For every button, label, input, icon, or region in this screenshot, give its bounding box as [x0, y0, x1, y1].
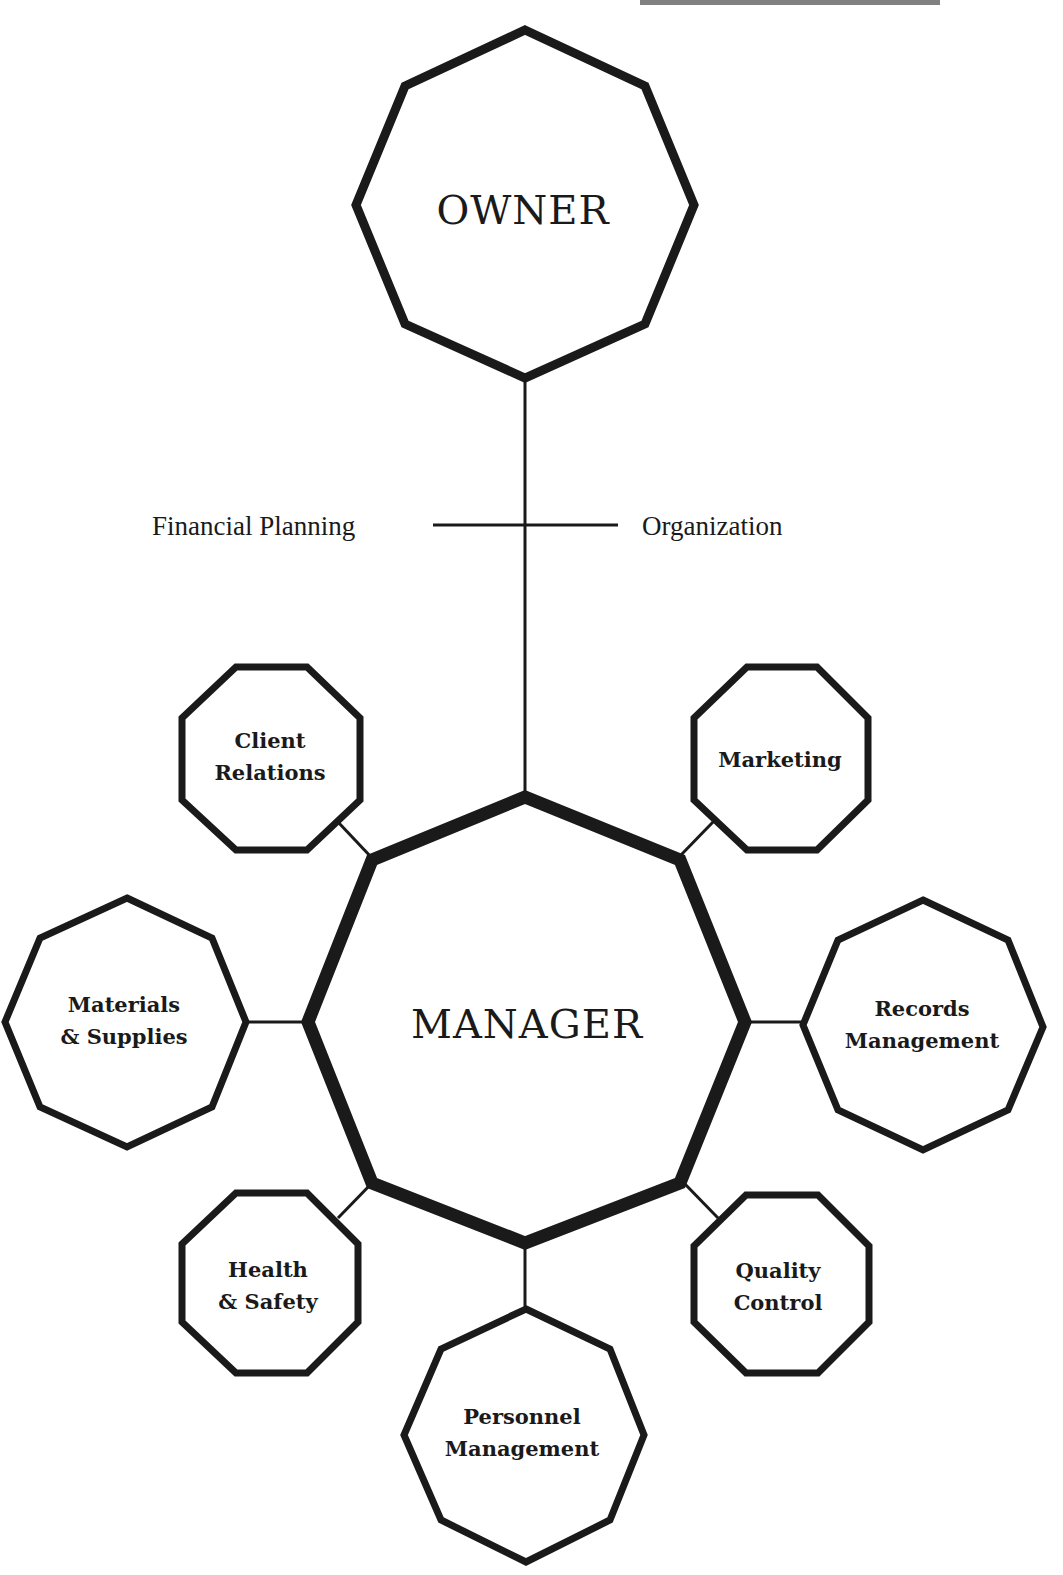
node-records-management: Records Management [803, 900, 1043, 1150]
client-relations-line1: Client [235, 728, 306, 753]
marketing-line1: Marketing [718, 747, 842, 772]
records-management-line2: Management [845, 1028, 1000, 1053]
connector-client-relations [338, 822, 372, 858]
materials-supplies-line2: & Supplies [60, 1024, 187, 1049]
materials-supplies-line1: Materials [68, 992, 180, 1017]
node-quality-control: Quality Control [694, 1195, 869, 1373]
quality-control-line2: Control [734, 1290, 823, 1315]
organization-label: Organization [642, 511, 783, 541]
financial-planning-label: Financial Planning [152, 511, 355, 541]
cropped-heading [640, 0, 940, 5]
personnel-management-line1: Personnel [463, 1404, 580, 1429]
client-relations-line2: Relations [214, 760, 325, 785]
org-diagram: OWNER Financial Planning Organization MA… [0, 0, 1063, 1575]
connector-health-safety [338, 1183, 372, 1218]
connector-quality-control [683, 1182, 718, 1218]
quality-control-line1: Quality [735, 1258, 821, 1283]
node-client-relations: Client Relations [182, 667, 360, 850]
health-safety-line1: Health [228, 1257, 308, 1282]
node-marketing: Marketing [694, 667, 868, 850]
node-materials-supplies: Materials & Supplies [5, 898, 246, 1147]
records-management-line1: Records [874, 996, 969, 1021]
node-personnel-management: Personnel Management [404, 1309, 644, 1562]
health-safety-line2: & Safety [218, 1289, 318, 1314]
connector-marketing [680, 822, 713, 856]
owner-label: OWNER [436, 187, 610, 233]
node-health-safety: Health & Safety [182, 1193, 358, 1373]
personnel-management-line2: Management [445, 1436, 600, 1461]
manager-label: MANAGER [411, 1001, 644, 1047]
